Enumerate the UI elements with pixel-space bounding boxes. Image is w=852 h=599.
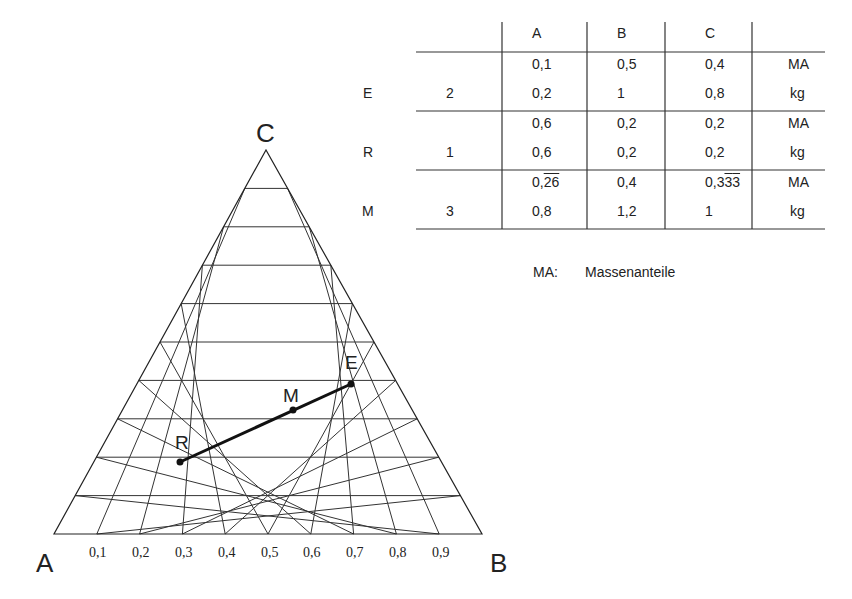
cell: 1: [705, 203, 713, 219]
legend-abbr: MA:: [533, 264, 558, 280]
row-label-m: M: [362, 203, 374, 219]
cell: 0,2: [532, 85, 551, 101]
header-c: C: [705, 25, 715, 41]
cell: 0,6: [532, 115, 551, 131]
unit-ma: MA: [788, 56, 809, 72]
row-mass-m: 3: [446, 203, 454, 219]
cell: 0,8: [705, 85, 724, 101]
cell: 0,4: [705, 56, 724, 72]
row-label-e: E: [363, 85, 372, 101]
unit-ma: MA: [788, 174, 809, 190]
cell-repeating: 0,333: [705, 174, 740, 190]
cell: 1: [617, 85, 625, 101]
cell: 0,5: [617, 56, 636, 72]
cell-prefix: 0,: [532, 174, 544, 190]
cell: 0,8: [532, 203, 551, 219]
row-mass-r: 1: [446, 144, 454, 160]
header-b: B: [617, 25, 626, 41]
cell: 0,1: [532, 56, 551, 72]
unit-kg: kg: [790, 85, 805, 101]
unit-kg: kg: [790, 144, 805, 160]
row-label-r: R: [363, 144, 373, 160]
legend-text: Massenanteile: [585, 264, 675, 280]
cell: 0,2: [617, 144, 636, 160]
cell: 0,2: [705, 115, 724, 131]
repeating-digits: 26: [544, 174, 560, 190]
cell: 1,2: [617, 203, 636, 219]
repeating-digits: 3: [732, 174, 740, 190]
unit-ma: MA: [788, 115, 809, 131]
unit-kg: kg: [790, 203, 805, 219]
cell: 0,4: [617, 174, 636, 190]
cell: 0,2: [705, 144, 724, 160]
cell-repeating: 0,26: [532, 174, 559, 190]
cell: 0,6: [532, 144, 551, 160]
header-a: A: [532, 25, 541, 41]
cell: 0,2: [617, 115, 636, 131]
cell-prefix: 0,3: [705, 174, 724, 190]
row-mass-e: 2: [446, 85, 454, 101]
